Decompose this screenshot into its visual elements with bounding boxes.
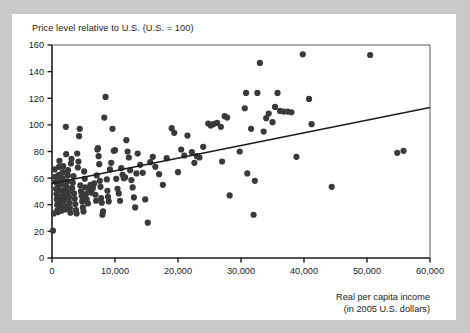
data-point — [104, 176, 110, 182]
data-point — [133, 170, 139, 176]
data-point — [106, 198, 112, 204]
data-point — [91, 180, 97, 186]
data-point — [394, 150, 400, 156]
data-point — [227, 192, 233, 198]
data-point — [72, 196, 78, 202]
data-point — [96, 161, 102, 167]
data-point — [140, 170, 146, 176]
data-point — [184, 132, 190, 138]
data-point — [254, 90, 260, 96]
data-point — [131, 194, 137, 200]
data-point — [102, 94, 108, 100]
data-point — [142, 196, 148, 202]
y-tick-label: 40 — [34, 200, 44, 210]
data-point — [74, 150, 80, 156]
data-point — [97, 178, 103, 184]
data-point — [113, 176, 119, 182]
data-point — [224, 114, 230, 120]
data-point — [96, 153, 102, 159]
data-point — [145, 220, 151, 226]
data-point — [242, 105, 248, 111]
data-point — [97, 184, 103, 190]
data-point — [244, 170, 250, 176]
data-point — [266, 110, 272, 116]
data-point — [150, 154, 156, 160]
data-point — [69, 185, 75, 191]
y-tick-label: 80 — [34, 147, 44, 157]
data-point — [293, 154, 299, 160]
x-tick-label: 30,000 — [227, 266, 255, 276]
data-point — [122, 174, 128, 180]
data-point — [329, 184, 335, 190]
data-point — [104, 188, 110, 194]
data-point — [112, 147, 118, 153]
data-point — [70, 180, 76, 186]
x-tick-label: 20,000 — [164, 266, 192, 276]
data-point — [63, 151, 69, 157]
y-tick-label: 140 — [29, 67, 44, 77]
data-point — [251, 212, 257, 218]
data-point — [56, 158, 62, 164]
data-point — [300, 51, 306, 57]
data-point — [109, 126, 115, 132]
data-point — [367, 52, 373, 58]
data-point — [75, 164, 81, 170]
data-point — [191, 160, 197, 166]
data-point — [81, 168, 87, 174]
data-point — [269, 119, 275, 125]
data-point — [219, 158, 225, 164]
data-point — [126, 154, 132, 160]
y-tick-label: 60 — [34, 174, 44, 184]
data-point — [117, 198, 123, 204]
data-point — [116, 190, 122, 196]
x-axis-label-line2: (in 2005 U.S. dollars) — [344, 304, 430, 314]
data-point — [272, 104, 278, 110]
y-tick-label: 20 — [34, 227, 44, 237]
data-point — [274, 90, 280, 96]
data-point — [196, 154, 202, 160]
data-point — [72, 201, 78, 207]
trend-line — [52, 108, 430, 184]
data-point — [65, 167, 71, 173]
data-point — [65, 172, 71, 178]
data-point — [257, 60, 263, 66]
y-tick-label: 0 — [39, 253, 44, 263]
data-point — [252, 178, 258, 184]
data-point — [156, 171, 162, 177]
data-point — [71, 190, 77, 196]
data-point — [152, 164, 158, 170]
data-point — [63, 124, 69, 130]
data-point — [85, 200, 91, 206]
data-point — [108, 160, 114, 166]
data-point — [132, 204, 138, 210]
data-point — [308, 121, 314, 127]
data-point — [237, 148, 243, 154]
data-point — [178, 146, 184, 152]
data-point — [125, 148, 131, 154]
data-point — [92, 192, 98, 198]
data-point — [288, 109, 294, 115]
data-point — [80, 208, 86, 214]
data-point — [66, 200, 72, 206]
y-tick-label: 100 — [29, 120, 44, 130]
figure-card: Price level relative to U.S. (U.S. = 100… — [12, 14, 456, 320]
data-point — [128, 177, 134, 183]
data-point — [101, 114, 107, 120]
x-tick-label: 40,000 — [290, 266, 318, 276]
x-tick-label: 60,000 — [416, 266, 444, 276]
scatter-plot: 020406080100120140160010,00020,00030,000… — [12, 14, 456, 320]
data-point — [66, 194, 72, 200]
data-point — [67, 210, 73, 216]
data-point — [100, 208, 106, 214]
data-point — [261, 128, 267, 134]
data-point — [123, 137, 129, 143]
data-point — [68, 156, 74, 162]
data-point — [175, 169, 181, 175]
data-point — [243, 90, 249, 96]
data-point — [76, 133, 82, 139]
data-point — [248, 126, 254, 132]
x-tick-label: 50,000 — [353, 266, 381, 276]
data-point — [218, 124, 224, 130]
x-tick-label: 0 — [49, 266, 54, 276]
data-point — [64, 184, 70, 190]
